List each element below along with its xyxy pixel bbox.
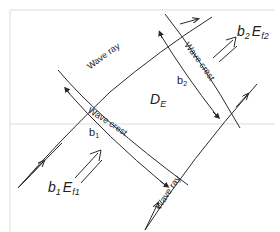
b1-label: b1 — [89, 126, 99, 139]
b2-arrow-bottom — [213, 112, 218, 117]
wave-ray-top-label: Wave ray — [85, 41, 122, 72]
b2-arrow-top — [160, 33, 162, 38]
wave-ray-top-arrow — [180, 19, 198, 24]
diagram-canvas: Wave ray Wave ray Wave crest Wave crest … — [0, 0, 280, 232]
flux-in-arrow-icon — [75, 150, 102, 183]
b2-label: b2 — [177, 74, 187, 87]
flux-out-label: b2Ef2 — [237, 23, 269, 41]
region-label: DE — [150, 91, 167, 109]
b1-arrow-top — [66, 89, 70, 94]
flux-in-label: b1Ef1 — [48, 179, 80, 197]
b1-arrow-bottom — [160, 181, 167, 186]
flux-out-arrow-icon — [213, 37, 237, 62]
wave-energy-diagram: Wave ray Wave ray Wave crest Wave crest … — [0, 0, 280, 232]
wave-ray-right-upper-arrow — [236, 94, 248, 107]
